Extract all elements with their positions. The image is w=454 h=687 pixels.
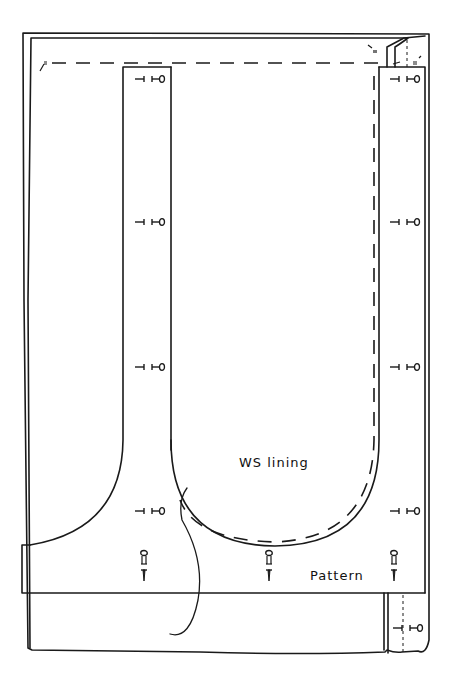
pin-icon xyxy=(393,625,423,632)
pins-left-strip xyxy=(135,76,165,515)
stitch-line-right xyxy=(180,76,374,542)
corner-mark-left xyxy=(40,62,47,71)
pin-icon xyxy=(390,76,420,83)
sewing-diagram: WS lining Pattern xyxy=(0,0,454,687)
fabric-outer-edge xyxy=(23,33,429,654)
pin-icon xyxy=(141,551,148,582)
pattern-left-strip xyxy=(30,67,171,545)
pattern-right-strip xyxy=(171,67,425,593)
pin-icon xyxy=(135,76,165,83)
pin-icon xyxy=(390,219,420,226)
pin-icon xyxy=(135,508,165,515)
pin-icon xyxy=(266,551,273,582)
thread-line xyxy=(170,488,200,635)
pin-icon xyxy=(135,364,165,371)
pins-right-strip xyxy=(390,76,423,632)
pin-icon xyxy=(390,508,420,515)
label-pattern: Pattern xyxy=(310,568,364,583)
pattern-bottom-band xyxy=(22,545,425,593)
pin-icon xyxy=(135,219,165,226)
pin-icon xyxy=(390,364,420,371)
pattern-u-curve xyxy=(171,67,379,546)
fabric-right-fold xyxy=(384,36,425,653)
label-ws-lining: WS lining xyxy=(239,455,309,470)
pin-icon xyxy=(391,551,398,582)
fabric-inner-line xyxy=(28,38,408,648)
